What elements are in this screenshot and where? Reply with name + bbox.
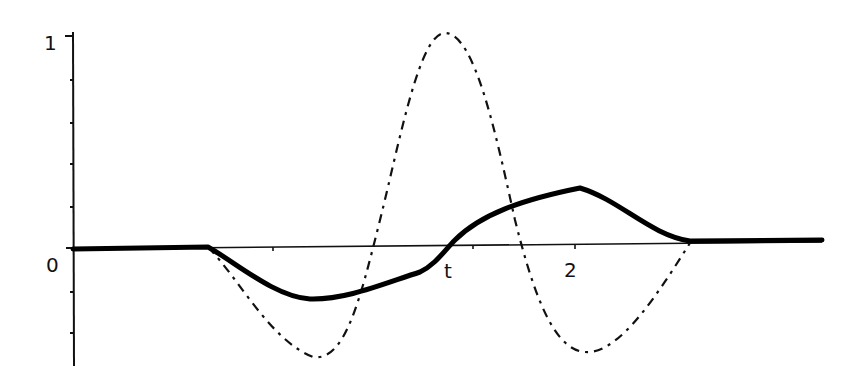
x-tick-label-2: 2 (564, 258, 577, 282)
y-axis (73, 32, 74, 366)
y-tick-label-0: 0 (46, 253, 59, 277)
chart: 1 0 t 2 (0, 0, 868, 384)
y-tick-label-1: 1 (44, 31, 57, 55)
x-axis-label-t: t (444, 259, 452, 283)
series-dashed-line (208, 33, 690, 357)
